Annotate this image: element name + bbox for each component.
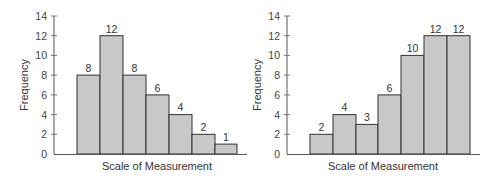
bar	[447, 36, 470, 154]
y-tick-label: 4	[274, 109, 280, 121]
y-tick-label: 0	[274, 148, 280, 160]
bar-value-label: 10	[407, 42, 419, 54]
bar	[169, 115, 192, 154]
bar-value-label: 8	[86, 62, 92, 74]
y-tick-label: 14	[35, 10, 47, 22]
bar	[310, 134, 333, 154]
bar	[356, 124, 378, 154]
bar-value-label: 6	[155, 82, 161, 94]
bar-value-label: 12	[453, 23, 465, 35]
y-tick-label: 14	[268, 10, 280, 22]
right-histogram: 0 2 4 6 8 10 12 14 2 4 3 6 10 12 12 Scal…	[251, 10, 480, 172]
y-tick-label: 8	[41, 69, 47, 81]
bar-value-label: 4	[342, 101, 348, 113]
bar	[333, 115, 356, 154]
bar-value-label: 8	[132, 62, 138, 74]
bar-value-label: 12	[106, 23, 118, 35]
bar-value-label: 6	[387, 82, 393, 94]
bar	[424, 36, 447, 154]
bar-value-label: 4	[178, 101, 184, 113]
y-tick-label: 10	[35, 49, 47, 61]
y-axis-title: Frequency	[18, 59, 30, 111]
histogram-figure: 0 2 4 6 8 10 12 14 8 12 8 6 4 2 1 Scale …	[0, 0, 499, 176]
bar	[100, 36, 123, 154]
bar-value-label: 12	[430, 23, 442, 35]
bar-value-label: 3	[364, 111, 370, 123]
left-histogram: 0 2 4 6 8 10 12 14 8 12 8 6 4 2 1 Scale …	[18, 10, 247, 172]
y-tick-label: 12	[35, 30, 47, 42]
y-tick-label: 4	[41, 109, 47, 121]
y-tick-label: 6	[41, 89, 47, 101]
bar	[146, 95, 169, 154]
y-tick-label: 8	[274, 69, 280, 81]
bar	[123, 75, 146, 154]
y-tick-label: 0	[41, 148, 47, 160]
bar	[401, 55, 424, 154]
y-tick-label: 2	[274, 128, 280, 140]
x-axis-title: Scale of Measurement	[102, 160, 212, 172]
bar-value-label: 1	[223, 131, 229, 143]
x-axis-title: Scale of Measurement	[328, 160, 438, 172]
bar	[215, 144, 237, 154]
bar-value-label: 2	[201, 121, 207, 133]
bar	[77, 75, 100, 154]
bar	[192, 134, 215, 154]
y-tick-label: 10	[268, 49, 280, 61]
bar-value-label: 2	[319, 121, 325, 133]
y-axis-title: Frequency	[251, 59, 263, 111]
y-tick-label: 2	[41, 128, 47, 140]
y-tick-label: 6	[274, 89, 280, 101]
y-tick-label: 12	[268, 30, 280, 42]
bar	[378, 95, 401, 154]
